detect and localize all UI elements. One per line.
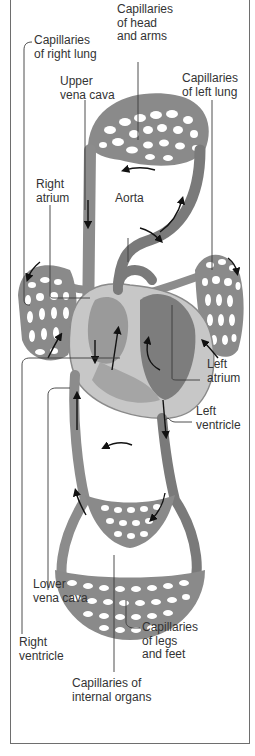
label-capillaries-internal-organs: Capillaries of internal organs [72,677,151,704]
label-upper-vena-cava: Upper vena cava [60,75,115,102]
heart [69,270,213,418]
label-capillaries-legs-feet: Capillaries of legs and feet [142,621,198,662]
label-aorta: Aorta [115,192,144,206]
label-left-atrium: Left atrium [207,358,240,385]
right-lung-capillaries [18,265,77,360]
label-capillaries-left-lung: Capillaries of left lung [182,72,238,99]
label-left-ventricle: Left ventricle [196,405,241,432]
internal-organs-capillaries [85,495,175,548]
label-right-ventricle: Right ventricle [19,636,64,663]
head-arms-capillaries [88,93,209,166]
label-lower-vena-cava: Lower vena cava [33,578,88,605]
label-capillaries-head-arms: Capillaries of head and arms [117,3,173,44]
label-right-atrium: Right atrium [36,178,69,205]
label-capillaries-right-lung: Capillaries of right lung [34,34,97,61]
